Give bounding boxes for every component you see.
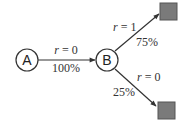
node-b: B [96,49,118,71]
edge-b-t2-reward: r = 0 [137,70,160,84]
edge-b-t1-reward: r = 1 [113,20,136,34]
node-b-label: B [102,52,111,68]
node-a: A [16,49,38,71]
diagram-canvas: r = 0 100% r = 1 75% r = 0 25% A B [0,0,190,129]
node-a-label: A [22,52,32,68]
terminal-state-top [160,3,177,20]
edge-a-to-b: r = 0 100% [38,43,95,75]
edge-b-t2-probability: 25% [113,85,135,99]
edge-b-t1-probability: 75% [136,35,158,49]
edge-b-to-t1: r = 1 75% [113,14,159,51]
edge-a-b-reward: r = 0 [54,43,77,57]
edge-b-to-t2: r = 0 25% [113,69,160,106]
edge-a-b-probability: 100% [52,61,80,75]
terminal-state-bottom [158,102,175,119]
